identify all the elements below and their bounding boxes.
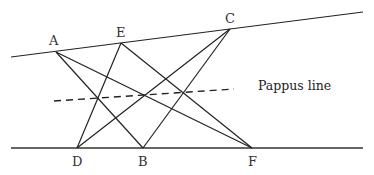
- cross-segments: [56, 29, 252, 148]
- point-label-f: F: [248, 154, 257, 169]
- segment-cb: [143, 29, 230, 148]
- segment-ed: [77, 43, 121, 148]
- pappus-line-label: Pappus line: [258, 78, 331, 93]
- point-label-b: B: [138, 154, 148, 169]
- segment-cd: [77, 29, 230, 148]
- point-label-e: E: [116, 25, 126, 40]
- pappus-line: [54, 89, 234, 101]
- pappus-diagram: A E C D B F Pappus line: [0, 0, 374, 175]
- point-label-a: A: [48, 33, 59, 48]
- upper-line: [11, 12, 363, 57]
- point-label-c: C: [225, 11, 235, 26]
- point-label-d: D: [72, 154, 82, 169]
